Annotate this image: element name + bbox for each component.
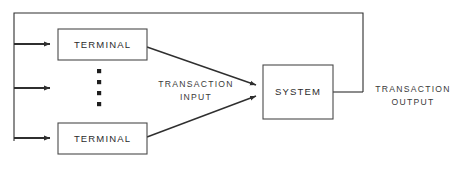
diagram-canvas: TERMINAL TERMINAL SYSTEM TRANSACTION INP… bbox=[0, 0, 467, 170]
block-diagram: TERMINAL TERMINAL SYSTEM TRANSACTION INP… bbox=[0, 0, 467, 170]
ellipsis-dot bbox=[97, 69, 101, 73]
transaction-output-label: TRANSACTION OUTPUT bbox=[375, 84, 450, 107]
terminal-bottom-to-system-wire bbox=[147, 96, 256, 137]
terminal-top-label: TERMINAL bbox=[74, 39, 131, 50]
terminal-bottom-label: TERMINAL bbox=[74, 133, 131, 144]
terminal-ellipsis bbox=[97, 69, 101, 106]
transaction-input-label-line2: INPUT bbox=[180, 92, 212, 102]
ellipsis-dot bbox=[97, 102, 101, 106]
transaction-output-label-line1: TRANSACTION bbox=[375, 84, 450, 94]
ellipsis-dot bbox=[97, 80, 101, 84]
transaction-input-label: TRANSACTION INPUT bbox=[158, 79, 233, 102]
system-label: SYSTEM bbox=[275, 86, 321, 97]
ellipsis-dot bbox=[97, 91, 101, 95]
transaction-output-label-line2: OUTPUT bbox=[392, 97, 435, 107]
transaction-input-label-line1: TRANSACTION bbox=[158, 79, 233, 89]
